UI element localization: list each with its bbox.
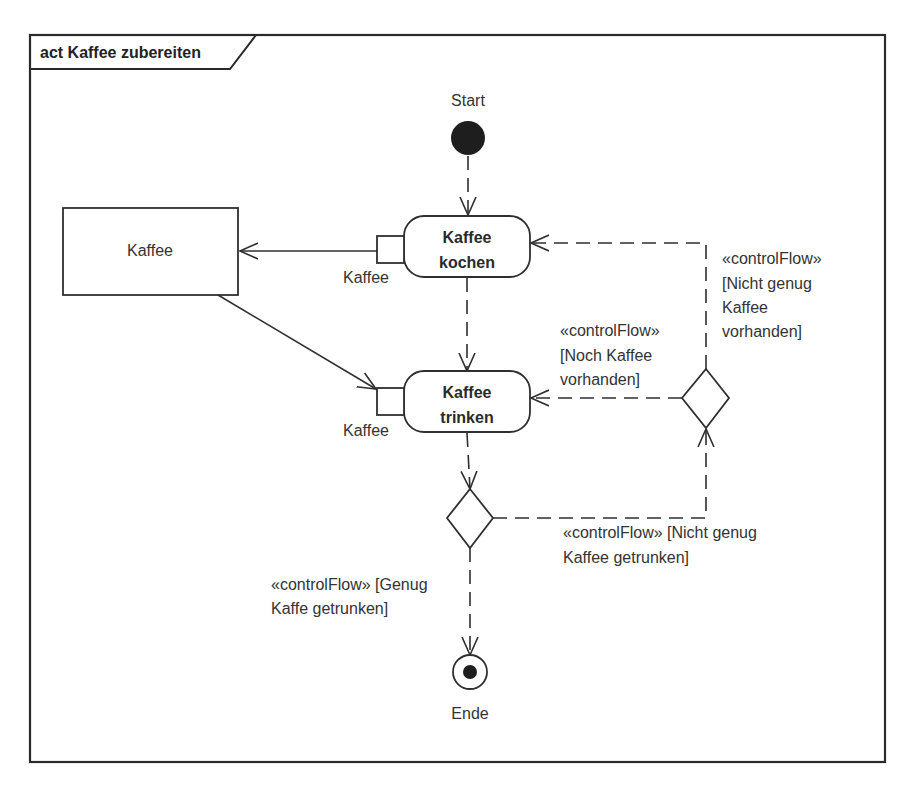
pin-label-kochen: Kaffee xyxy=(343,269,389,286)
guard-line: «controlFlow» xyxy=(560,322,660,339)
start-label: Start xyxy=(451,92,485,109)
initial-node-circle xyxy=(451,121,485,155)
action-trinken-line2: trinken xyxy=(440,409,493,426)
guard-line: vorhanden] xyxy=(560,371,640,388)
guard-line: Kaffee xyxy=(722,299,768,316)
guard-line: «controlFlow» [Genug xyxy=(271,576,428,593)
activity-diagram: act Kaffee zubereiten Start Kaffee Kaffe… xyxy=(0,0,914,786)
final-node[interactable] xyxy=(453,655,487,689)
pin-label-trinken: Kaffee xyxy=(343,422,389,439)
output-pin-kochen[interactable] xyxy=(377,236,404,263)
guard-genug-getrunken: «controlFlow» [Genug Kaffe getrunken] xyxy=(271,576,428,617)
guard-line: vorhanden] xyxy=(722,323,802,340)
action-kaffee-kochen[interactable]: Kaffee kochen xyxy=(404,216,530,277)
guard-noch-vorhanden: «controlFlow» [Noch Kaffee vorhanden] xyxy=(560,322,660,388)
flow-trinken-to-decision xyxy=(467,433,470,489)
guard-line: Kaffee getrunken] xyxy=(563,549,689,566)
action-kochen-line2: kochen xyxy=(439,254,495,271)
guard-line: [Nicht genug xyxy=(722,275,812,292)
guard-nicht-genug-getrunken: «controlFlow» [Nicht genug Kaffee getrun… xyxy=(563,524,757,566)
initial-node[interactable]: Start xyxy=(451,92,485,155)
guard-line: Kaffe getrunken] xyxy=(271,600,388,617)
decision-node-vorhanden[interactable] xyxy=(682,369,729,428)
flow-nicht-genug-getrunken xyxy=(493,429,706,518)
guard-nicht-genug-vorhanden: «controlFlow» [Nicht genug Kaffee vorhan… xyxy=(722,250,822,340)
action-kaffee-trinken[interactable]: Kaffee trinken xyxy=(404,371,530,432)
frame-title: act Kaffee zubereiten xyxy=(40,44,201,61)
guard-line: «controlFlow» xyxy=(722,250,822,267)
guard-line: «controlFlow» [Nicht genug xyxy=(563,524,757,541)
end-label: Ende xyxy=(451,705,488,722)
decision-node-getrunken[interactable] xyxy=(447,489,493,548)
guard-line: [Noch Kaffee xyxy=(560,347,652,364)
input-pin-trinken[interactable] xyxy=(377,388,404,415)
action-kochen-line1: Kaffee xyxy=(443,229,492,246)
flow-object-to-trinken xyxy=(218,295,376,389)
object-node-label: Kaffee xyxy=(127,242,173,259)
object-node-kaffee[interactable]: Kaffee xyxy=(63,208,238,295)
action-trinken-line1: Kaffee xyxy=(443,384,492,401)
